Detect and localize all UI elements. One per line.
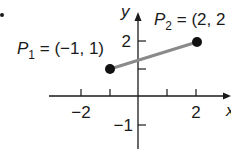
x-axis-arrow-icon (223, 93, 231, 100)
point-p2-label: P2 = (2, 2 (154, 10, 225, 33)
coordinate-plane: −2 2 2 −1 y x P1 = (−1, 1) P2 = (2, 2 (0, 0, 231, 149)
y-ticks (138, 41, 146, 125)
bullet-dot (0, 13, 4, 17)
y-axis-arrow-icon (135, 12, 142, 21)
y-tick-label-neg1: −1 (114, 116, 133, 135)
y-axis-label: y (120, 2, 131, 21)
x-tick-label-neg2: −2 (71, 103, 90, 122)
point-p1-label: P1 = (−1, 1) (17, 39, 104, 62)
point-p2 (192, 37, 202, 47)
x-tick-label-2: 2 (191, 103, 200, 122)
point-p1 (105, 64, 115, 74)
y-tick-label-2: 2 (122, 32, 131, 51)
x-axis-label: x (225, 101, 231, 120)
